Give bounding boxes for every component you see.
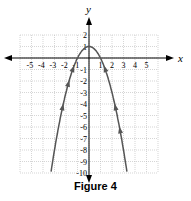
figure-caption: Figure 4 xyxy=(0,180,191,192)
svg-text:-4: -4 xyxy=(38,61,45,70)
svg-text:2: 2 xyxy=(110,61,114,70)
parabola-chart: xy-5-4-3-2-11234521-1-2-3-4-5-6-7-8-9-10 xyxy=(0,0,191,201)
svg-text:5: 5 xyxy=(145,61,149,70)
svg-text:-10: -10 xyxy=(76,169,87,178)
svg-text:y: y xyxy=(85,3,91,15)
svg-text:-5: -5 xyxy=(80,112,87,121)
svg-text:-1: -1 xyxy=(80,66,87,75)
svg-text:-7: -7 xyxy=(80,135,87,144)
svg-text:3: 3 xyxy=(122,61,126,70)
svg-text:-2: -2 xyxy=(80,77,87,86)
svg-text:-6: -6 xyxy=(80,123,87,132)
svg-text:4: 4 xyxy=(133,61,137,70)
svg-text:-9: -9 xyxy=(80,158,87,167)
svg-text:-2: -2 xyxy=(61,61,68,70)
svg-text:-8: -8 xyxy=(80,146,87,155)
svg-text:-3: -3 xyxy=(80,89,87,98)
svg-text:-4: -4 xyxy=(80,100,87,109)
svg-text:x: x xyxy=(177,52,183,64)
svg-text:-3: -3 xyxy=(50,61,57,70)
svg-text:-5: -5 xyxy=(27,61,34,70)
svg-text:2: 2 xyxy=(83,31,87,40)
